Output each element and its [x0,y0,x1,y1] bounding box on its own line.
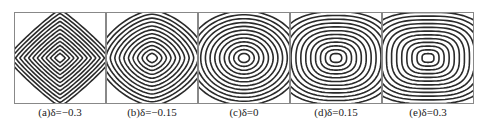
contour-plot-d [290,12,382,104]
caption-e: (e)δ=0.3 [382,106,474,118]
panel-a [14,12,106,104]
panel-d [290,12,382,104]
contour-plot-c [198,12,290,104]
contour-plot-e [382,12,474,104]
panel-c [198,12,290,104]
panel-b [106,12,198,104]
contour-plot-b [106,12,198,104]
contour-figure [14,12,474,104]
caption-d: (d)δ=0.15 [290,106,382,118]
panel-e [382,12,474,104]
contour-plot-a [14,12,106,104]
caption-c: (c)δ=0 [198,106,290,118]
caption-b: (b)δ=−0.15 [106,106,198,118]
caption-a: (a)δ=−0.3 [14,106,106,118]
